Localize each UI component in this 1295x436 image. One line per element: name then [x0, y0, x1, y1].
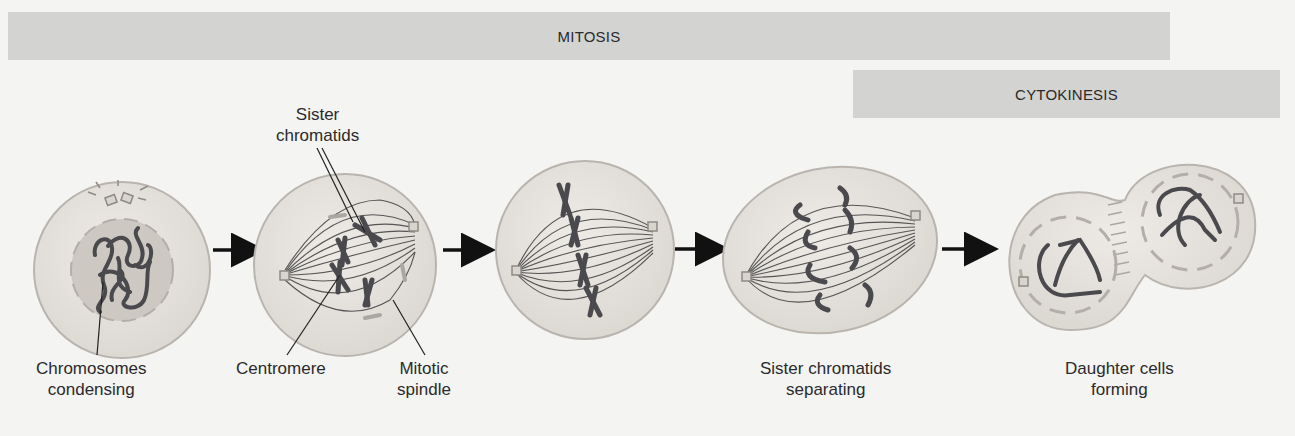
metaphase-cell [496, 161, 674, 339]
label-mitotic-spindle: Mitotic spindle [397, 358, 451, 400]
telophase-cell [1009, 165, 1255, 330]
label-sister-chromatids: Sister chromatids [276, 104, 359, 146]
prometaphase-cell [254, 148, 436, 356]
prophase-cell [34, 180, 210, 358]
label-daughter-cells-forming: Daughter cells forming [1065, 358, 1174, 400]
label-centromere: Centromere [236, 358, 326, 379]
label-chromosomes-condensing: Chromosomes condensing [36, 358, 147, 400]
anaphase-cell [707, 147, 952, 352]
label-sister-chromatids-separating: Sister chromatids separating [760, 358, 891, 400]
